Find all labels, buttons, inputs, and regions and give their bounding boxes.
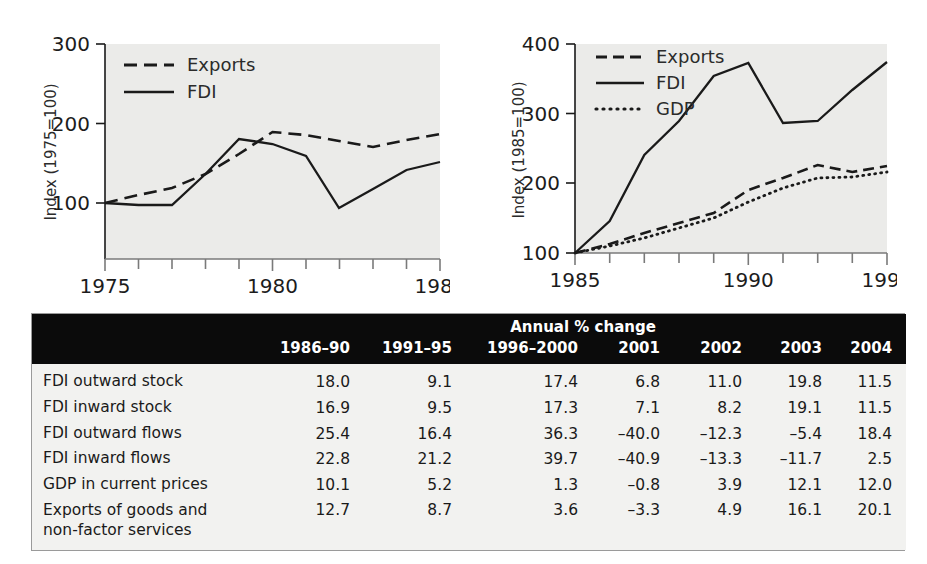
annual-change-table: Annual % change 1986–90 1991–95 1996–200…: [31, 313, 905, 551]
cell-value: 3.9: [674, 472, 756, 498]
cell-value: 39.7: [466, 446, 592, 472]
column-header-1991-95: 1991–95: [364, 338, 466, 364]
x-tick-label-1985: 1985: [415, 274, 450, 298]
right-chart-svg: 400 300 200 100 1985 1990 1994 Index (: [472, 18, 897, 298]
cell-value: 9.1: [364, 364, 466, 395]
cell-value: 25.4: [260, 421, 364, 447]
table-row: FDI outward stock 18.0 9.1 17.4 6.8 11.0…: [32, 364, 906, 395]
cell-value: 1.3: [466, 472, 592, 498]
data-table: Annual % change 1986–90 1991–95 1996–200…: [32, 314, 906, 550]
cell-value: 3.6: [466, 498, 592, 550]
table-row: GDP in current prices 10.1 5.2 1.3 –0.8 …: [32, 472, 906, 498]
cell-value: 19.8: [756, 364, 836, 395]
y-tick-label-400: 400: [522, 32, 560, 56]
cell-value: –0.8: [592, 472, 674, 498]
y-axis-ticks: [96, 44, 105, 203]
legend-label-fdi: FDI: [656, 72, 686, 93]
cell-value: –40.9: [592, 446, 674, 472]
row-label: FDI inward flows: [32, 446, 260, 472]
cell-value: 16.9: [260, 395, 364, 421]
cell-value: 12.7: [260, 498, 364, 550]
cell-value: 12.1: [756, 472, 836, 498]
cell-value: 11.0: [674, 364, 756, 395]
chart-right-index-1985: 400 300 200 100 1985 1990 1994 Index (: [472, 18, 897, 298]
legend-label-fdi: FDI: [187, 81, 217, 102]
cell-value: 22.8: [260, 446, 364, 472]
cell-value: 16.1: [756, 498, 836, 550]
table-row: FDI inward flows 22.8 21.2 39.7 –40.9 –1…: [32, 446, 906, 472]
span-header-annual-change: Annual % change: [260, 314, 906, 338]
row-label: FDI outward stock: [32, 364, 260, 395]
table-row: FDI inward stock 16.9 9.5 17.3 7.1 8.2 1…: [32, 395, 906, 421]
column-header-2004: 2004: [836, 338, 906, 364]
row-label: GDP in current prices: [32, 472, 260, 498]
x-tick-label-1975: 1975: [80, 274, 131, 298]
cell-value: 12.0: [836, 472, 906, 498]
x-tick-label-1990: 1990: [723, 268, 774, 292]
y-tick-label-100: 100: [522, 241, 560, 265]
cell-value: –13.3: [674, 446, 756, 472]
row-label: Exports of goods and non-factor services: [32, 498, 260, 550]
column-header-1986-90: 1986–90: [260, 338, 364, 364]
cell-value: 16.4: [364, 421, 466, 447]
legend-label-gdp: GDP: [656, 98, 695, 119]
cell-value: –5.4: [756, 421, 836, 447]
cell-value: 8.2: [674, 395, 756, 421]
cell-value: 11.5: [836, 364, 906, 395]
cell-value: 17.3: [466, 395, 592, 421]
y-axis-ticks: [566, 44, 575, 253]
column-header-2001: 2001: [592, 338, 674, 364]
x-tick-label-1980: 1980: [247, 274, 298, 298]
table-column-header-row: 1986–90 1991–95 1996–2000 2001 2002 2003…: [32, 338, 906, 364]
cell-value: 18.4: [836, 421, 906, 447]
plot-area-background: [105, 44, 440, 259]
cell-value: 17.4: [466, 364, 592, 395]
legend-label-exports: Exports: [656, 46, 724, 67]
span-header-blank: [32, 314, 260, 338]
x-axis-ticks: [575, 253, 887, 265]
cell-value: 21.2: [364, 446, 466, 472]
legend-label-exports: Exports: [187, 54, 255, 75]
y-tick-label-300: 300: [52, 32, 90, 56]
plot-area-background: [575, 44, 887, 253]
cell-value: 11.5: [836, 395, 906, 421]
cell-value: 36.3: [466, 421, 592, 447]
row-label: FDI inward stock: [32, 395, 260, 421]
column-header-2002: 2002: [674, 338, 756, 364]
y-axis-title: Index (1985=100): [510, 81, 528, 218]
cell-value: 5.2: [364, 472, 466, 498]
cell-value: 6.8: [592, 364, 674, 395]
cell-value: –3.3: [592, 498, 674, 550]
y-axis-title: Index (1975=100): [42, 83, 60, 220]
cell-value: 10.1: [260, 472, 364, 498]
table-span-header-row: Annual % change: [32, 314, 906, 338]
cell-value: 19.1: [756, 395, 836, 421]
column-header-0: [32, 338, 260, 364]
left-chart-svg: 300 200 100 1975 1980 1985 Index (1: [40, 28, 450, 298]
column-header-2003: 2003: [756, 338, 836, 364]
column-header-1996-2000: 1996–2000: [466, 338, 592, 364]
cell-value: 2.5: [836, 446, 906, 472]
cell-value: 8.7: [364, 498, 466, 550]
cell-value: –11.7: [756, 446, 836, 472]
x-axis-ticks: [105, 259, 440, 271]
table-row: Exports of goods and non-factor services…: [32, 498, 906, 550]
row-label: FDI outward flows: [32, 421, 260, 447]
cell-value: 7.1: [592, 395, 674, 421]
chart-left-index-1975: 300 200 100 1975 1980 1985 Index (1: [40, 28, 450, 298]
x-tick-label-1994: 1994: [862, 268, 897, 292]
cell-value: 18.0: [260, 364, 364, 395]
table-head: Annual % change 1986–90 1991–95 1996–200…: [32, 314, 906, 364]
x-tick-label-1985: 1985: [550, 268, 601, 292]
figure-page: 300 200 100 1975 1980 1985 Index (1: [0, 0, 927, 564]
table-row: FDI outward flows 25.4 16.4 36.3 –40.0 –…: [32, 421, 906, 447]
cell-value: 9.5: [364, 395, 466, 421]
cell-value: –40.0: [592, 421, 674, 447]
table-body: FDI outward stock 18.0 9.1 17.4 6.8 11.0…: [32, 364, 906, 550]
cell-value: 20.1: [836, 498, 906, 550]
cell-value: 4.9: [674, 498, 756, 550]
cell-value: –12.3: [674, 421, 756, 447]
